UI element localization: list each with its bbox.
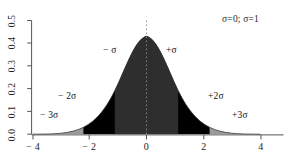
y-axis-ticks	[27, 21, 31, 135]
x-tick-label-2: 0	[134, 141, 160, 152]
y-tick-label-3: 0.3	[7, 54, 17, 78]
annotation-minus-three-sigma: − 3σ	[40, 110, 58, 120]
annotation-plus-sigma: +σ	[166, 45, 177, 55]
x-tick-label-1: − 2	[76, 141, 102, 152]
distribution-parameters-label: σ=0; σ=1	[222, 14, 259, 24]
annotation-plus-two-sigma: +2σ	[208, 91, 224, 101]
y-tick-label-1: 0.1	[7, 100, 17, 124]
annotation-minus-sigma: − σ	[103, 45, 116, 55]
y-tick-label-4: 0.4	[7, 31, 17, 55]
annotation-plus-three-sigma: +3σ	[232, 110, 248, 120]
y-tick-label-5: 0.5	[7, 9, 17, 33]
x-tick-label-4: 4	[248, 141, 274, 152]
y-tick-label-2: 0.2	[7, 77, 17, 101]
y-tick-label-0: 0.0	[7, 123, 17, 147]
x-axis-ticks	[33, 135, 261, 140]
x-tick-label-0: − 4	[20, 141, 46, 152]
annotation-minus-two-sigma: − 2σ	[58, 91, 76, 101]
x-tick-label-3: 2	[191, 141, 217, 152]
normal-distribution-figure: 0.0 0.1 0.2 0.3 0.4 0.5 − 4 − 2 0 2 4 − …	[0, 0, 289, 167]
